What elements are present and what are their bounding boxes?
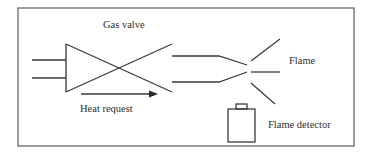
burner-nozzle (172, 56, 247, 82)
flame-icon (251, 39, 280, 104)
heat-request-label: Heat request (80, 104, 133, 115)
flame-detector-label: Flame detector (268, 120, 331, 131)
flame-label: Flame (289, 56, 315, 67)
gas-inlet-pipes (32, 60, 66, 78)
heat-request-arrow-icon (81, 91, 158, 98)
gas-valve-icon (66, 44, 172, 92)
flame-detector-icon (228, 104, 255, 142)
gas-valve-label: Gas valve (103, 20, 145, 31)
